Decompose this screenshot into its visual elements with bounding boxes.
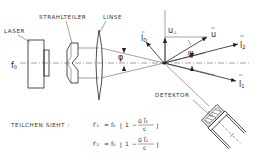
svg-text:c: c <box>143 144 146 151</box>
svg-text:[: [ <box>120 122 122 129</box>
lens-leader <box>100 21 106 32</box>
equation-1: f′₁ = f₀ [ 1 − u⃗ l⃗₁ c ] <box>93 117 158 132</box>
l1-vector-arrow <box>164 63 236 81</box>
beam-splitter-label: STRAHLTEILER <box>39 14 86 20</box>
lD-label: lD <box>141 34 147 43</box>
u-perp-label: u⊥ <box>168 26 177 35</box>
detector-leader <box>193 100 212 117</box>
svg-text:f₀: f₀ <box>111 121 116 128</box>
svg-text:c: c <box>143 125 146 132</box>
u-vector-arrow <box>164 37 207 63</box>
particle-sees-label: TEILCHEN SIEHT : <box>10 122 70 128</box>
detector-label: DETEKTOR <box>155 92 190 98</box>
laser-icon <box>28 40 49 88</box>
svg-text:u⃗ l⃗₂: u⃗ l⃗₂ <box>138 136 148 143</box>
svg-text:]: ] <box>156 122 158 129</box>
focused-beam-upper <box>101 48 164 63</box>
u-angle-mark <box>188 40 191 45</box>
psi-symbol: ψ <box>188 49 193 58</box>
focused-beam-lower <box>101 63 164 78</box>
beam-splitter-leader <box>66 21 72 43</box>
u-label: u <box>211 30 216 39</box>
l2-vector-arrow <box>164 44 238 63</box>
laser-doppler-diagram: φ lD u⊥ u l2 ψ l1 <box>0 0 263 164</box>
svg-text:1: 1 <box>125 121 129 128</box>
l1-label: l1 <box>239 80 244 89</box>
svg-text:f′₁: f′₁ <box>93 121 99 128</box>
laser-label: LASER <box>4 28 25 34</box>
laser-leader <box>18 35 30 42</box>
svg-text:−: − <box>132 121 137 128</box>
svg-text:[: [ <box>120 141 122 148</box>
svg-text:1: 1 <box>125 140 129 147</box>
svg-text:=: = <box>104 121 109 128</box>
f0-label: f0 <box>11 61 17 70</box>
detector-icon <box>199 102 248 151</box>
lD-vector-arrow <box>146 42 164 63</box>
lens-icon <box>96 30 103 100</box>
svg-text:f₀: f₀ <box>111 140 116 147</box>
equation-2: f′₂ = f₀ [ 1 − u⃗ l⃗₂ c ] <box>93 136 158 151</box>
svg-text:u⃗ l⃗₁: u⃗ l⃗₁ <box>138 117 148 124</box>
l2-label: l2 <box>240 41 245 50</box>
phi-symbol: φ <box>118 53 123 62</box>
svg-text:f′₂: f′₂ <box>93 140 99 147</box>
lens-label: LINSE <box>103 14 122 20</box>
svg-text:=: = <box>104 140 109 147</box>
svg-text:−: − <box>132 140 137 147</box>
svg-text:]: ] <box>156 141 158 148</box>
scatter-line-to-detector <box>164 63 209 106</box>
